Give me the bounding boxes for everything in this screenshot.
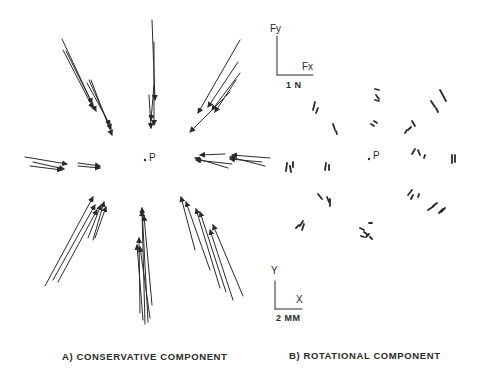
force-field-figure	[0, 0, 478, 376]
rotational-arrow	[440, 90, 446, 101]
force-arrow	[212, 73, 240, 110]
force-arrow	[200, 154, 225, 155]
force-arrow	[25, 157, 67, 164]
rotational-arrow	[296, 225, 299, 228]
position-scale-y-label: Y	[271, 265, 278, 276]
rotational-arrow	[316, 108, 318, 113]
rotational-arrow	[361, 236, 364, 237]
conservative-arrow-field	[25, 20, 270, 324]
panel-a-caption: A) CONSERVATIVE COMPONENT	[62, 351, 227, 362]
force-arrow	[45, 197, 93, 286]
rotational-arrow	[374, 121, 377, 123]
rotational-arrow	[424, 155, 425, 158]
rotational-arrow	[325, 163, 326, 170]
rotational-arrow	[408, 190, 412, 195]
force-arrow	[58, 210, 97, 282]
rotational-arrow	[411, 195, 413, 199]
rotational-arrow	[286, 163, 287, 171]
rotational-arrow	[433, 203, 437, 206]
force-arrow	[190, 92, 230, 132]
position-scale-unit: 2 MM	[276, 313, 301, 323]
center-point-dot	[144, 159, 146, 161]
rotational-arrow	[300, 221, 303, 226]
force-arrow	[78, 163, 100, 166]
rotational-arrow-field	[286, 89, 455, 239]
rotational-arrow	[408, 127, 411, 130]
rotational-arrow	[431, 101, 435, 107]
position-scale-x-label: X	[296, 294, 303, 305]
force-arrow	[63, 50, 93, 108]
rotational-arrow	[318, 194, 322, 199]
center-points	[144, 158, 370, 161]
rotational-arrow	[371, 124, 374, 126]
scale-bars	[275, 36, 313, 309]
center-point-dot	[368, 158, 370, 160]
rotational-arrow	[405, 130, 407, 133]
rotational-arrow	[412, 149, 415, 154]
force-arrow	[232, 155, 270, 158]
force-arrow	[149, 95, 151, 128]
rotational-arrow	[327, 197, 329, 202]
panel-b-caption: B) ROTATIONAL COMPONENT	[289, 350, 441, 361]
panel-b-center-label: P	[373, 150, 380, 161]
rotational-arrow	[364, 232, 368, 235]
force-arrow	[186, 202, 210, 270]
force-arrow	[30, 166, 62, 170]
rotational-arrow	[376, 95, 379, 99]
force-arrow	[78, 166, 100, 168]
rotational-arrow	[375, 100, 379, 101]
force-scale-y-label: Fy	[270, 23, 281, 34]
rotational-arrow	[336, 131, 337, 134]
rotational-arrow	[370, 237, 372, 239]
rotational-arrow	[418, 150, 420, 155]
rotational-arrow	[313, 102, 315, 110]
panel-a-center-label: P	[149, 152, 156, 163]
force-arrow	[198, 40, 240, 113]
rotational-arrow	[290, 166, 291, 172]
rotational-arrow	[436, 108, 438, 112]
force-scale-unit: 1 N	[286, 80, 302, 90]
rotational-arrow	[418, 194, 419, 197]
force-scale-x-label: Fx	[302, 61, 313, 72]
force-arrow	[181, 197, 195, 250]
rotational-arrow	[412, 121, 415, 126]
rotational-arrow	[375, 89, 379, 90]
rotational-arrow	[333, 124, 335, 130]
rotational-arrow	[360, 228, 364, 230]
rotational-arrow	[302, 224, 304, 230]
force-arrow	[53, 205, 95, 280]
